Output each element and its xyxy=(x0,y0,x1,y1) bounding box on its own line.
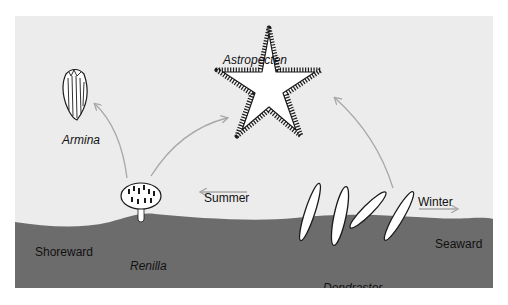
astropecten-icon xyxy=(217,28,321,136)
label-dendraster: Dendraster xyxy=(323,282,382,288)
diagram-panel: Astropecten Armina Summer Winter Shorewa… xyxy=(15,16,493,288)
label-summer: Summer xyxy=(204,192,249,204)
label-astropecten: Astropecten xyxy=(223,54,287,66)
label-renilla: Renilla xyxy=(130,260,167,272)
label-seaward: Seaward xyxy=(435,238,482,250)
arrow-dendraster-to-astropecten xyxy=(335,98,393,188)
label-armina: Armina xyxy=(62,134,100,146)
label-shoreward: Shoreward xyxy=(35,246,93,258)
label-winter: Winter xyxy=(418,196,453,208)
arrow-renilla-to-astropecten xyxy=(151,118,227,176)
armina-icon xyxy=(63,70,87,121)
